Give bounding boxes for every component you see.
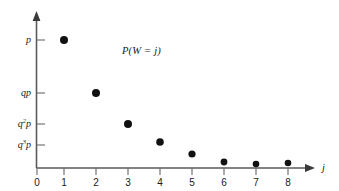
data-point-8 <box>285 160 292 167</box>
y-axis-arrow-icon <box>33 11 41 21</box>
y-tick-label-p: p <box>26 35 31 45</box>
x-tick-label-6: 6 <box>221 178 227 188</box>
data-point-4 <box>156 138 164 146</box>
data-point-2 <box>92 89 100 97</box>
data-points <box>60 36 291 167</box>
data-point-7 <box>253 161 260 168</box>
x-tick-label-5: 5 <box>189 178 195 188</box>
x-tick-label-2: 2 <box>93 178 99 188</box>
x-tick-label-4: 4 <box>157 178 163 188</box>
x-axis-arrow-icon <box>305 164 315 172</box>
x-tick-label-0: 0 <box>34 178 40 188</box>
x-tick-label-8: 8 <box>285 178 291 188</box>
x-axis-group <box>37 164 316 172</box>
data-point-6 <box>221 159 228 166</box>
y-tick-label-q2p: q2p <box>18 119 31 129</box>
y-tick-label-qp: qp <box>21 88 31 98</box>
data-point-3 <box>124 120 132 128</box>
x-tick-label-7: 7 <box>253 178 259 188</box>
x-tick-label-1: 1 <box>61 178 67 188</box>
y-axis-ticks <box>37 40 46 145</box>
x-axis-label: j <box>322 163 325 174</box>
data-point-5 <box>188 150 195 157</box>
y-tick-label-q3p: q3p <box>18 140 31 150</box>
geometric-distribution-figure: p qp q2p q3p 0 1 2 3 4 5 6 7 8 j P(W = j… <box>0 0 339 191</box>
x-tick-label-3: 3 <box>125 178 131 188</box>
series-annotation: P(W = j) <box>122 46 161 57</box>
plot-canvas <box>0 0 339 191</box>
x-axis-ticks <box>37 168 288 175</box>
data-point-1 <box>60 36 68 44</box>
